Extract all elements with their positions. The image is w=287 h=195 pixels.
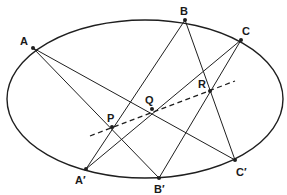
point-A-dot-icon	[31, 46, 35, 50]
line-A-C2	[33, 48, 235, 160]
point-R-dot-icon	[208, 89, 212, 93]
label-C: C	[242, 25, 250, 37]
cross-join-lines	[33, 20, 241, 178]
label-Q: Q	[145, 94, 154, 106]
point-C-dot-icon	[239, 38, 243, 42]
point-B-dot-icon	[183, 18, 187, 22]
line-C-A2	[86, 40, 241, 169]
label-A-prime: A′	[75, 174, 86, 186]
point-A2-dot-icon	[84, 167, 88, 171]
label-B-prime: B′	[154, 183, 165, 195]
diagram-canvas: A B C A′ B′ C′ P Q R	[0, 0, 287, 195]
label-A: A	[20, 35, 28, 47]
line-B-A2	[86, 20, 185, 169]
point-B2-dot-icon	[157, 176, 161, 180]
point-C2-dot-icon	[233, 158, 237, 162]
pascal-diagram: A B C A′ B′ C′ P Q R	[0, 0, 287, 195]
point-Q-dot-icon	[150, 107, 154, 111]
label-R: R	[198, 78, 206, 90]
point-P-dot-icon	[110, 125, 114, 129]
label-B: B	[180, 5, 188, 17]
label-P: P	[107, 112, 114, 124]
label-C-prime: C′	[236, 166, 247, 178]
line-A-B2	[33, 48, 159, 178]
